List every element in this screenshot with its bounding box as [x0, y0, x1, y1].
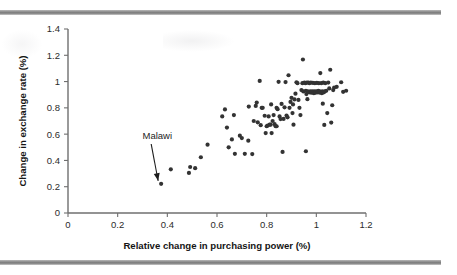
data-point: [270, 131, 274, 135]
data-point: [232, 113, 236, 117]
data-point: [223, 107, 227, 111]
data-point: [328, 68, 332, 72]
data-point: [326, 81, 330, 85]
data-point: [258, 79, 262, 83]
annotation-group: Malawi: [143, 130, 173, 181]
data-point: [305, 97, 309, 101]
bottom-divider-rule: [0, 260, 441, 265]
y-tick-label: 0.2: [47, 181, 60, 192]
data-point: [321, 102, 325, 106]
data-point: [296, 98, 300, 102]
data-point: [255, 101, 259, 105]
data-point: [286, 73, 290, 77]
data-point: [275, 107, 279, 111]
y-tick-label: 0.8: [47, 102, 60, 113]
data-point: [295, 81, 299, 85]
data-point: [279, 102, 283, 106]
data-point: [193, 166, 197, 170]
data-point: [252, 119, 256, 123]
data-point: [272, 113, 276, 117]
data-point: [169, 167, 173, 171]
data-point: [227, 145, 231, 149]
y-tick-label: 1.2: [47, 50, 60, 61]
x-axis-ticks: 00.20.40.60.811.2: [65, 213, 372, 230]
annotation-arrow-head: [154, 173, 160, 181]
data-point: [298, 113, 302, 117]
data-point: [259, 123, 263, 127]
data-point: [159, 182, 163, 186]
data-point: [287, 106, 291, 110]
data-point: [188, 165, 192, 169]
data-point: [246, 139, 250, 143]
data-point: [285, 115, 289, 119]
x-tick-label: 1: [314, 219, 319, 230]
data-point: [247, 104, 251, 108]
data-point: [230, 137, 234, 141]
x-tick-label: 0.4: [161, 219, 174, 230]
data-point: [205, 143, 209, 147]
x-tick-label: 0: [65, 219, 70, 230]
data-point: [344, 89, 348, 93]
data-point: [187, 171, 191, 175]
y-tick-label: 0.6: [47, 129, 60, 140]
data-point: [339, 80, 343, 84]
data-point: [280, 150, 284, 154]
data-point-group: [159, 57, 348, 186]
data-point: [293, 92, 297, 96]
data-point: [220, 114, 224, 118]
y-tick-label: 1.4: [47, 23, 60, 34]
x-tick-label: 0.6: [210, 219, 223, 230]
annotation-label-malawi: Malawi: [143, 130, 173, 141]
data-point: [330, 103, 334, 107]
data-point: [261, 106, 265, 110]
data-point: [301, 57, 305, 61]
x-tick-label: 0.8: [260, 219, 273, 230]
data-point: [291, 123, 295, 127]
y-tick-label: 0.4: [47, 155, 60, 166]
y-tick-label: 1: [55, 76, 60, 87]
data-point: [199, 155, 203, 159]
data-point: [290, 111, 294, 115]
y-axis-title: Change in exchange rate (%): [17, 55, 28, 186]
data-point: [269, 123, 273, 127]
x-axis-title: Relative change in purchasing power (%): [123, 240, 310, 251]
data-point: [304, 149, 308, 153]
data-point: [243, 152, 247, 156]
data-point: [225, 125, 229, 129]
data-point: [269, 102, 273, 106]
scatter-plot: 00.20.40.60.811.21.4 00.20.40.60.811.2 M…: [0, 0, 457, 275]
data-point: [276, 80, 280, 84]
data-point: [322, 123, 326, 127]
data-point: [250, 152, 254, 156]
data-point: [297, 106, 301, 110]
data-point: [291, 102, 295, 106]
data-point: [275, 124, 279, 128]
data-point: [267, 114, 271, 118]
data-point: [327, 86, 331, 90]
data-point: [233, 152, 237, 156]
data-point: [281, 117, 285, 121]
x-tick-label: 0.2: [111, 219, 124, 230]
data-point: [283, 80, 287, 84]
data-point: [335, 85, 339, 89]
data-point: [292, 97, 296, 101]
data-point: [263, 114, 267, 118]
y-tick-label: 0: [55, 207, 60, 218]
y-axis-ticks: 00.20.40.60.811.21.4: [47, 23, 68, 218]
data-point: [240, 136, 244, 140]
data-point: [282, 105, 286, 109]
figure-container: 00.20.40.60.811.21.4 00.20.40.60.811.2 M…: [0, 0, 457, 275]
data-point: [318, 71, 322, 75]
data-point: [264, 131, 268, 135]
x-tick-label: 1.2: [359, 219, 372, 230]
data-point: [329, 120, 333, 124]
data-point: [325, 111, 329, 115]
